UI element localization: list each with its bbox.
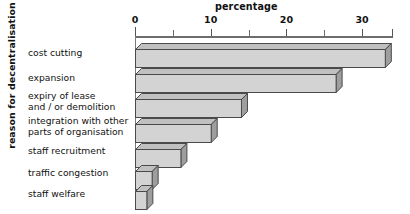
bar-top-face	[136, 94, 248, 100]
category-label-line1: traffic congestion	[28, 168, 133, 179]
chart-title: percentage	[215, 1, 278, 12]
bar-top-face	[136, 119, 218, 125]
category-label-5: traffic congestion	[28, 168, 133, 179]
category-label-line1: staff welfare	[28, 189, 133, 200]
bar-top-face	[136, 144, 187, 150]
x-tick-30	[362, 29, 363, 36]
x-axis-end-cap	[392, 29, 393, 37]
category-label-1: expansion	[28, 73, 133, 84]
category-label-line2: and / or demolition	[28, 102, 133, 113]
x-tick-0	[135, 29, 136, 36]
x-tick-20	[286, 29, 287, 36]
x-tick-label-0: 0	[132, 14, 139, 25]
bar-front-face	[136, 75, 337, 93]
bar-chart: reason for decentralisation percentage 0…	[0, 0, 410, 214]
category-label-line2: parts of organisation	[28, 127, 133, 138]
x-tick-label-30: 30	[355, 14, 368, 25]
bar-1	[135, 68, 344, 94]
bar-top-face	[136, 44, 392, 50]
bar-front-face	[136, 100, 242, 118]
bar-2	[135, 93, 249, 119]
x-tick-5	[173, 30, 174, 36]
bar-front-face	[136, 125, 212, 143]
category-label-line1: expiry of lease	[28, 91, 133, 102]
category-label-2: expiry of leaseand / or demolition	[28, 91, 133, 112]
category-label-3: integration with otherparts of organisat…	[28, 116, 133, 137]
bar-3	[135, 118, 219, 144]
x-axis-line	[135, 36, 393, 38]
category-label-4: staff recruitment	[28, 146, 133, 157]
bar-top-face	[136, 69, 343, 75]
bar-6	[135, 185, 154, 211]
category-label-line1: integration with other	[28, 116, 133, 127]
category-label-line1: staff recruitment	[28, 146, 133, 157]
bar-front-face	[136, 50, 386, 68]
x-tick-10	[211, 29, 212, 36]
category-label-line1: cost cutting	[28, 48, 133, 59]
bar-0	[135, 43, 393, 69]
y-axis-title: reason for decentralisation	[6, 0, 17, 161]
category-label-0: cost cutting	[28, 48, 133, 59]
x-tick-label-20: 20	[280, 14, 293, 25]
x-tick-15	[249, 30, 250, 36]
category-label-line1: expansion	[28, 73, 133, 84]
x-tick-25	[324, 30, 325, 36]
bar-front-face	[136, 192, 147, 210]
category-label-6: staff welfare	[28, 189, 133, 200]
x-tick-label-10: 10	[204, 14, 217, 25]
